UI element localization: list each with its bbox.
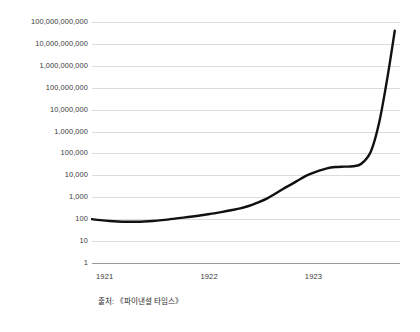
- chart-container: 100,000,000,00010,000,000,0001,000,000,0…: [0, 0, 420, 332]
- series-layer: [0, 0, 420, 332]
- line-series-price-index: [92, 31, 395, 222]
- source-caption: 출처: 《파이낸셜 타임스》: [98, 297, 183, 307]
